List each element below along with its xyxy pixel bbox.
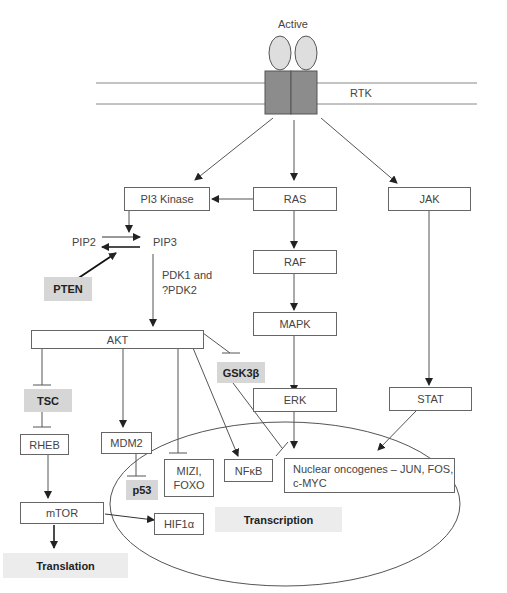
node-mdm2: MDM2 [101, 432, 152, 454]
node-akt: AKT [31, 330, 204, 349]
rtk-label: RTK [350, 86, 372, 100]
node-pi3-kinase: PI3 Kinase [124, 187, 210, 211]
oncogenes-line2: c-MYC [293, 476, 327, 490]
node-erk: ERK [253, 388, 337, 412]
node-tsc: TSC [24, 389, 72, 412]
node-rheb: RHEB [20, 434, 69, 455]
mizi-line2: FOXO [173, 478, 204, 492]
node-pip3: PIP3 [153, 235, 177, 249]
node-ras: RAS [253, 187, 337, 211]
active-label: Active [278, 17, 308, 31]
node-stat: STAT [389, 387, 472, 411]
pdk-label-line1: PDK1 and [162, 268, 212, 282]
node-mtor: mTOR [20, 502, 104, 524]
node-nuclear-oncogenes: Nuclear oncogenes – JUN, FOS, c-MYC [284, 458, 455, 493]
mizi-line1: MIZI, [176, 464, 201, 478]
ligand-right [295, 36, 317, 70]
node-gsk3b: GSK3β [217, 362, 265, 383]
node-pip2: PIP2 [72, 235, 96, 249]
node-raf: RAF [253, 250, 337, 274]
node-mapk: MAPK [253, 312, 337, 336]
transcription-label: Transcription [215, 507, 342, 532]
node-pten: PTEN [44, 277, 92, 301]
node-mizi-foxo: MIZI, FOXO [164, 459, 214, 497]
translation-label: Translation [3, 553, 128, 578]
node-p53: p53 [126, 480, 158, 500]
ligand-left [269, 36, 291, 70]
node-jak: JAK [388, 187, 471, 211]
node-hif1a: HIF1α [154, 513, 204, 535]
oncogenes-line1: Nuclear oncogenes – JUN, FOS, [293, 462, 453, 476]
pdk-label-line2: ?PDK2 [162, 283, 197, 297]
node-nfkb: NFκB [224, 459, 273, 482]
